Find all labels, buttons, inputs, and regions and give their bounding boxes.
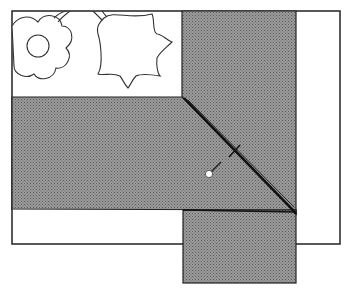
pin-head	[205, 170, 212, 177]
diagram-canvas	[0, 0, 350, 294]
mitered-corner-diagram	[0, 0, 350, 294]
vertical-strip-extension	[183, 210, 296, 283]
flower-center	[27, 35, 49, 57]
